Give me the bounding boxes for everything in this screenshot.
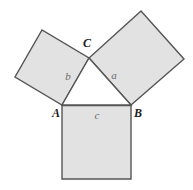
pythagorean-theorem-figure: b a c C A B <box>0 0 193 190</box>
vertex-label-A: A <box>51 106 60 120</box>
side-label-c: c <box>95 109 100 121</box>
vertex-label-B: B <box>133 106 142 120</box>
pythagorean-theorem-svg: b a c C A B <box>0 0 193 190</box>
vertex-label-C: C <box>83 36 92 50</box>
side-label-b: b <box>65 70 71 82</box>
side-label-a: a <box>111 69 117 81</box>
